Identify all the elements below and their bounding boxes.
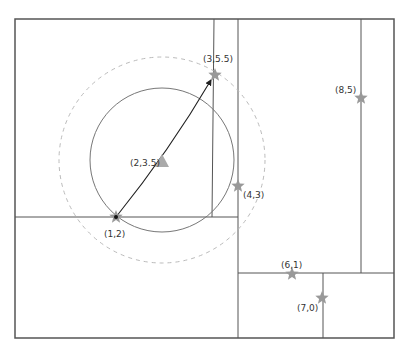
start-point-dot (114, 215, 118, 219)
point-label: (3,5.5) (203, 54, 233, 64)
search-arrow (116, 80, 211, 217)
query-label: (2,3.5) (130, 158, 160, 168)
kd-tree-diagram: (1,2)(3,5.5)(4,3)(6,1)(7,0)(8,5) (2,3.5) (0, 0, 412, 349)
partition-line-x-left (212, 19, 214, 217)
point-label: (1,2) (104, 229, 125, 239)
point-label: (8,5) (335, 85, 356, 95)
point-label: (6,1) (281, 260, 302, 270)
star-icon (208, 68, 221, 81)
point-label: (4,3) (243, 190, 264, 200)
star-icon (315, 291, 328, 304)
outer-frame (15, 19, 394, 338)
point-label: (7,0) (297, 303, 318, 313)
